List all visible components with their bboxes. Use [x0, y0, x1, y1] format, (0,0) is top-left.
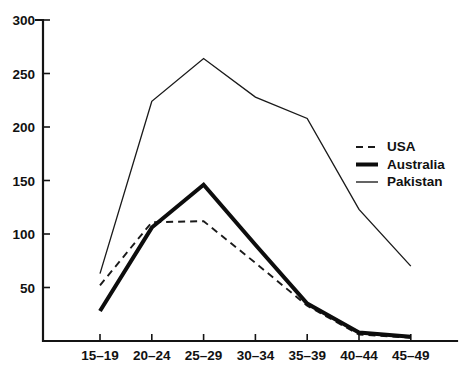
x-tick-label-6: 45–49 [392, 348, 430, 363]
legend-label-pakistan: Pakistan [387, 174, 443, 189]
series-line-australia [100, 185, 411, 337]
y-tick-label-200: 200 [12, 120, 35, 135]
chart-container: 50100150200250300 15–1920–2425–2930–3435… [0, 0, 464, 378]
x-tick-label-5: 40–44 [340, 348, 378, 363]
y-tick-label-50: 50 [20, 281, 35, 296]
y-tick-label-300: 300 [12, 13, 35, 28]
x-tick-label-1: 20–24 [133, 348, 171, 363]
x-tick-label-0: 15–19 [81, 348, 119, 363]
x-tick-label-3: 30–34 [237, 348, 275, 363]
y-axis-tick-labels: 50100150200250300 [12, 13, 35, 296]
y-tick-label-100: 100 [12, 227, 35, 242]
x-tick-label-2: 25–29 [185, 348, 223, 363]
chart-series [100, 59, 411, 338]
legend-label-usa: USA [387, 139, 416, 154]
line-chart: 50100150200250300 15–1920–2425–2930–3435… [0, 0, 464, 378]
y-tick-label-250: 250 [12, 67, 35, 82]
x-tick-label-4: 35–39 [288, 348, 326, 363]
y-tick-label-150: 150 [12, 174, 35, 189]
chart-legend: USAAustraliaPakistan [356, 139, 445, 189]
legend-label-australia: Australia [387, 157, 445, 172]
x-axis-tick-labels: 15–1920–2425–2930–3435–3940–4445–49 [81, 348, 429, 363]
